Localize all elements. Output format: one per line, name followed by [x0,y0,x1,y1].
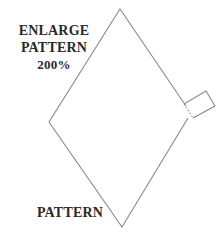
diamond-outline [49,9,188,227]
pattern-shape [0,0,224,234]
pattern-label: PATTERN [35,204,105,221]
tab-outline [184,91,215,118]
tab-fold-line [184,104,193,118]
pattern-diagram: ENLARGE PATTERN 200% PATTERN [0,0,224,234]
